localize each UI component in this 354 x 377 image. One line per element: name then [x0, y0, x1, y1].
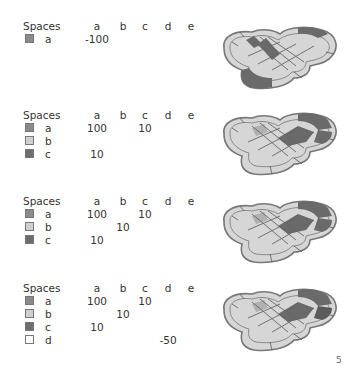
column-header-a: a [85, 282, 109, 294]
cell-value: 10 [107, 308, 139, 320]
cell-value: 100 [81, 295, 113, 307]
board-diagram-icon [218, 196, 340, 266]
column-header-a: a [85, 20, 109, 32]
column-header-b: b [111, 282, 135, 294]
board-diagram-icon [218, 108, 340, 178]
column-header-d: d [156, 195, 180, 207]
header-label: Spaces [23, 109, 60, 121]
row-label: a [45, 33, 51, 45]
color-swatch-icon [25, 309, 34, 318]
row-label: c [45, 234, 51, 246]
column-header-d: d [156, 20, 180, 32]
color-swatch-icon [25, 149, 34, 158]
cell-value: 10 [107, 221, 139, 233]
color-swatch-icon [25, 123, 34, 132]
column-header-d: d [156, 282, 180, 294]
color-swatch-icon [25, 235, 34, 244]
column-header-e: e [179, 20, 203, 32]
header-label: Spaces [23, 195, 60, 207]
row-label: a [45, 208, 51, 220]
row-label: b [45, 135, 52, 147]
row-label: b [45, 308, 52, 320]
board-diagram-icon [218, 22, 340, 92]
cell-value: -50 [152, 334, 184, 346]
row-label: c [45, 148, 51, 160]
row-label: d [45, 334, 52, 346]
row-label: a [45, 295, 51, 307]
game-board-diagram [218, 22, 340, 92]
column-header-d: d [156, 109, 180, 121]
cell-value: 10 [129, 122, 161, 134]
cell-value: 10 [81, 234, 113, 246]
color-swatch-icon [25, 136, 34, 145]
cell-value: 100 [81, 122, 113, 134]
color-swatch-icon [25, 34, 34, 43]
column-header-c: c [133, 109, 157, 121]
cell-value: 10 [129, 208, 161, 220]
row-label: a [45, 122, 51, 134]
column-header-a: a [85, 109, 109, 121]
color-swatch-icon [25, 296, 34, 305]
cell-value: 10 [81, 148, 113, 160]
column-header-e: e [179, 109, 203, 121]
row-label: c [45, 321, 51, 333]
column-header-c: c [133, 195, 157, 207]
header-label: Spaces [23, 282, 60, 294]
column-header-e: e [179, 282, 203, 294]
cell-value: 100 [81, 208, 113, 220]
header-label: Spaces [23, 20, 60, 32]
cell-value: 10 [129, 295, 161, 307]
game-board-diagram [218, 284, 340, 354]
color-swatch-icon [25, 209, 34, 218]
column-header-e: e [179, 195, 203, 207]
column-header-b: b [111, 109, 135, 121]
color-swatch-icon [25, 335, 34, 344]
column-header-a: a [85, 195, 109, 207]
row-label: b [45, 221, 52, 233]
color-swatch-icon [25, 222, 34, 231]
color-swatch-icon [25, 322, 34, 331]
cell-value: -100 [81, 33, 113, 45]
board-diagram-icon [218, 284, 340, 354]
game-board-diagram [218, 108, 340, 178]
cell-value: 10 [81, 321, 113, 333]
column-header-b: b [111, 20, 135, 32]
game-board-diagram [218, 196, 340, 266]
column-header-c: c [133, 20, 157, 32]
column-header-c: c [133, 282, 157, 294]
column-header-b: b [111, 195, 135, 207]
page-number: 5 [336, 355, 342, 365]
